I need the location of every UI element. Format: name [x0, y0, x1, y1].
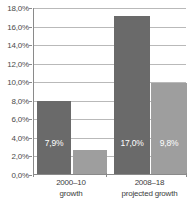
y-axis-tick-label: 12,0% [7, 59, 29, 68]
y-axis-tick-label: 4,0% [12, 133, 29, 142]
y-axis-tick-label: 14,0% [7, 41, 29, 50]
x-axis-category-line: projected growth [113, 188, 186, 199]
gridline [34, 175, 186, 176]
y-axis-tick-label: 2,0% [12, 152, 29, 161]
y-axis-tick-mark [29, 156, 32, 157]
bars-group: 7,9%2,6%17,0%9,8% [34, 8, 186, 174]
y-axis-tick-mark [29, 138, 32, 139]
y-axis-tick-label: 10,0% [7, 78, 29, 87]
bar-value-label: 2,6% [81, 138, 100, 148]
x-axis-category-line: 2008–18 [135, 178, 165, 187]
x-axis-tick-mark [106, 173, 107, 177]
y-axis-tick-label: 6,0% [12, 115, 29, 124]
bar-2000-10-growth-series-1: 7,9% [37, 101, 71, 174]
x-axis: 2000–10growth2008–18projected growth [33, 177, 186, 209]
bar-2000-10-growth-series-2: 2,6% [73, 150, 107, 174]
bar-value-label: 7,9% [45, 138, 64, 148]
y-axis-tick-label: 8,0% [12, 96, 29, 105]
x-axis-tick-mark [33, 173, 34, 177]
y-axis-tick-mark [29, 64, 32, 65]
y-axis-tick-mark [29, 175, 32, 176]
x-axis-category-line: 2000–10 [56, 178, 86, 187]
bar-2008-18-projected-growth-series-2: 9,8% [151, 83, 187, 174]
x-axis-tick-mark [186, 173, 187, 177]
bar-value-label: 17,0% [120, 138, 143, 148]
y-axis-tick-mark [29, 45, 32, 46]
x-axis-category-label: 2008–18projected growth [113, 177, 186, 199]
y-axis-tick-mark [29, 101, 32, 102]
y-axis-tick-mark [29, 119, 32, 120]
y-axis-tick-label: 0,0% [12, 171, 29, 180]
y-axis-tick-mark [29, 8, 32, 9]
y-axis: 18,0%16,0%14,0%12,0%10,0%8,0%6,0%4,0%2,0… [0, 0, 32, 183]
y-axis-tick-mark [29, 82, 32, 83]
bar-chart: 18,0%16,0%14,0%12,0%10,0%8,0%6,0%4,0%2,0… [0, 0, 192, 209]
x-axis-category-label: 2000–10growth [36, 177, 106, 199]
x-axis-category-line: growth [36, 188, 106, 199]
bar-value-label: 9,8% [160, 138, 179, 148]
bar-2008-18-projected-growth-series-1: 17,0% [114, 16, 150, 174]
plot-area: 7,9%2,6%17,0%9,8% [33, 8, 186, 175]
y-axis-tick-label: 18,0% [7, 4, 29, 13]
y-axis-tick-label: 16,0% [7, 22, 29, 31]
y-axis-tick-mark [29, 27, 32, 28]
